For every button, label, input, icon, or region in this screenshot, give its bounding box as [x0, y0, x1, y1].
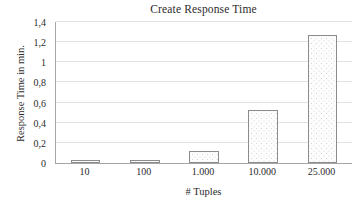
- x-tick-label: 10.000: [248, 166, 276, 177]
- gridline: [56, 21, 352, 22]
- bar: [248, 110, 278, 163]
- bar: [308, 35, 338, 163]
- x-tick-label: 1.000: [192, 166, 215, 177]
- y-tick-label: 1: [41, 57, 46, 68]
- plot-area: [55, 22, 352, 164]
- y-tick-label: 0,6: [34, 97, 47, 108]
- x-axis-title: # Tuples: [55, 186, 352, 197]
- x-tick-label: 100: [136, 166, 151, 177]
- y-axis-tick-labels: 00,20,40,60,811,21,4: [0, 22, 50, 164]
- y-tick-label: 0: [41, 158, 46, 169]
- bar: [189, 151, 219, 163]
- x-axis-tick-labels: 101001.00010.00025.000: [55, 166, 352, 182]
- y-tick-label: 1,4: [34, 17, 47, 28]
- y-tick-label: 0,4: [34, 117, 47, 128]
- chart-title: Create Response Time: [55, 3, 352, 15]
- y-tick-label: 1,2: [34, 37, 47, 48]
- y-tick-label: 0,2: [34, 137, 47, 148]
- bar: [71, 160, 101, 163]
- y-tick-label: 0,8: [34, 77, 47, 88]
- bar: [130, 160, 160, 163]
- x-tick-label: 10: [80, 166, 90, 177]
- chart-container: Create Response Time Response Time in mi…: [0, 0, 364, 210]
- x-tick-label: 25.000: [308, 166, 336, 177]
